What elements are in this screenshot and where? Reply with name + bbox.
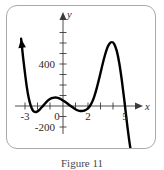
x-tick-label-2: 2 <box>85 110 91 122</box>
x-axis-arrow-icon <box>135 103 143 110</box>
x-axis-label: x <box>144 101 150 112</box>
figure-container: y x -3 0 2 5 400 -200 Figure 11 <box>0 0 164 170</box>
y-tick-label-neg200: -200 <box>35 121 56 133</box>
plot-frame: y x -3 0 2 5 400 -200 <box>6 5 156 149</box>
x-tick-label-5: 5 <box>122 110 128 122</box>
polynomial-graph: y x -3 0 2 5 400 -200 <box>7 6 155 148</box>
y-tick-label-400: 400 <box>39 58 56 70</box>
x-tick-label-neg3: -3 <box>20 110 30 122</box>
figure-caption: Figure 11 <box>0 157 164 169</box>
origin-label: 0 <box>54 110 60 122</box>
y-axis-label: y <box>66 9 72 20</box>
y-axis-arrow-icon <box>60 12 67 20</box>
